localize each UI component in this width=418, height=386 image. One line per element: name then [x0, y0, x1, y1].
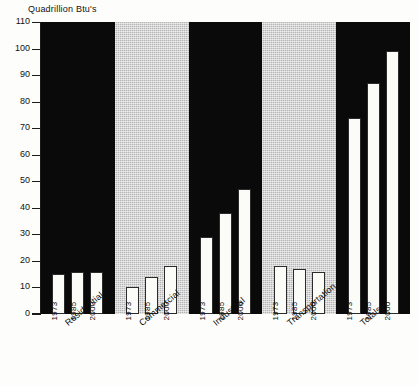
bar-year-label: 1973 — [51, 302, 59, 321]
bar-industrial-1973: 1973 — [200, 237, 213, 314]
plot-area: 1973198520001973198520001973198520001973… — [41, 22, 410, 314]
bar-totals-1973: 1973 — [348, 118, 361, 314]
y-axis-tick-label: 20 — [20, 255, 30, 265]
bar-totals-1985: 1985 — [367, 83, 380, 314]
y-axis-tick-label: 100 — [15, 43, 30, 53]
y-axis-tick-label: 90 — [20, 69, 30, 79]
bar-year-label: 1973 — [125, 302, 133, 321]
bar-year-label: 1973 — [272, 302, 280, 321]
bar-year-label: 2000 — [384, 302, 392, 321]
bar-residential-1973: 1973 — [52, 274, 65, 314]
y-axis-tick-label: 70 — [20, 122, 30, 132]
energy-consumption-bar-chart: Quadrillion Btu's 0102030405060708090100… — [0, 0, 418, 386]
y-axis-title: Quadrillion Btu's — [28, 4, 97, 14]
category-band-residential — [41, 22, 115, 314]
category-band-commercial — [115, 22, 189, 314]
bar-commercial-1973: 1973 — [126, 287, 139, 314]
bar-totals-2000: 2000 — [386, 51, 399, 314]
y-axis-tick-label: 0 — [25, 308, 30, 318]
bar-year-label: 1973 — [199, 302, 207, 321]
y-axis-tick-label: 80 — [20, 96, 30, 106]
y-axis: 0102030405060708090100110 — [0, 22, 41, 314]
y-axis-tick-label: 10 — [20, 281, 30, 291]
bar-year-label: 1973 — [346, 302, 354, 321]
y-axis-tick-label: 30 — [20, 228, 30, 238]
y-axis-tick-mark — [32, 314, 41, 315]
bar-industrial-1985: 1985 — [219, 213, 232, 314]
y-axis-tick-label: 60 — [20, 149, 30, 159]
y-axis-tick-label: 40 — [20, 202, 30, 212]
y-axis-tick-label: 110 — [16, 16, 30, 26]
y-axis-tick-label: 50 — [20, 175, 30, 185]
bar-transportation-1973: 1973 — [274, 266, 287, 314]
